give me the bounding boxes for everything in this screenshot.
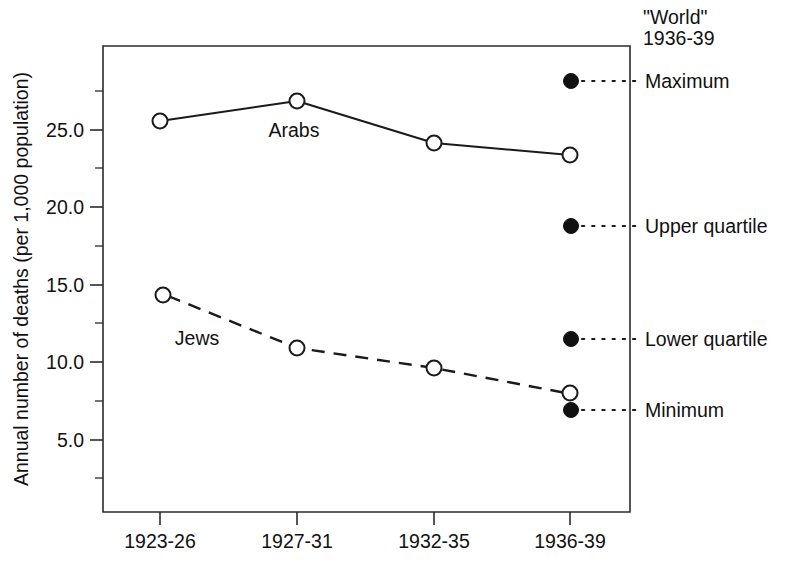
y-tick-label-20: 20.0 [46, 196, 84, 218]
reference-marker-upper-quartile: Upper quartile [564, 215, 768, 237]
y-tick-label-25: 25.0 [46, 119, 84, 141]
reference-label-maximum: Maximum [645, 70, 730, 92]
series-line-jews [168, 296, 566, 393]
reference-label-upper-quartile: Upper quartile [645, 215, 767, 237]
y-tick-label-10: 10.0 [46, 351, 84, 373]
series-label-jews: Jews [175, 327, 220, 349]
reference-dot-maximum [564, 74, 579, 89]
data-point-arabs-1932-35 [427, 136, 442, 151]
data-point-jews-1927-31 [290, 341, 305, 356]
x-tick-label-1923-26: 1923-26 [124, 530, 196, 552]
reference-header-line-2: 1936-39 [643, 27, 715, 49]
reference-marker-maximum: Maximum [564, 70, 730, 92]
reference-dot-lower-quartile [564, 332, 579, 347]
series-label-arabs: Arabs [269, 119, 320, 141]
y-axis-title: Annual number of deaths (per 1,000 popul… [10, 72, 32, 486]
data-point-arabs-1927-31 [290, 94, 305, 109]
y-tick-label-5: 5.0 [57, 429, 84, 451]
x-tick-label-1932-35: 1932-35 [398, 530, 470, 552]
reference-label-minimum: Minimum [645, 399, 724, 421]
x-axis-ticks [160, 512, 570, 525]
y-axis-major-ticks [90, 130, 103, 440]
data-point-jews-1932-35 [427, 361, 442, 376]
chart-page: 25.0 20.0 15.0 10.0 5.0 Annual number of… [0, 0, 790, 567]
data-point-jews-1923-26 [156, 288, 171, 303]
x-tick-label-1936-39: 1936-39 [534, 530, 606, 552]
y-tick-label-15: 15.0 [46, 274, 84, 296]
data-point-arabs-1923-26 [153, 114, 168, 129]
reference-dot-minimum [564, 403, 579, 418]
x-tick-label-1927-31: 1927-31 [261, 530, 333, 552]
series-markers-arabs [153, 94, 578, 163]
reference-marker-lower-quartile: Lower quartile [564, 328, 768, 350]
data-point-jews-1936-39 [563, 386, 578, 401]
reference-dot-upper-quartile [564, 219, 579, 234]
reference-label-lower-quartile: Lower quartile [645, 328, 767, 350]
reference-header-line-1: "World" [643, 6, 707, 28]
series-line-arabs [160, 101, 570, 155]
data-point-arabs-1936-39 [563, 148, 578, 163]
line-chart: 25.0 20.0 15.0 10.0 5.0 Annual number of… [0, 0, 790, 567]
reference-marker-minimum: Minimum [564, 399, 725, 421]
plot-frame [103, 46, 630, 512]
